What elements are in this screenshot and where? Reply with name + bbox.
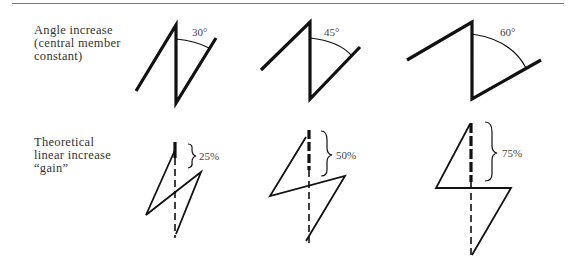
brace-icon (188, 144, 196, 168)
figure-angle-30: 30° (136, 25, 216, 103)
angle-label: 45° (324, 26, 339, 38)
angle-arc (472, 34, 526, 68)
figure-gain-25: 25% (146, 142, 219, 238)
figure-gain-75: 75% (436, 122, 522, 258)
brace-icon (321, 131, 332, 176)
figure-gain-50: 50% (270, 130, 356, 244)
gain-label: 50% (336, 149, 356, 161)
diagram-canvas: 30° 45° 60° 25% 50% 75% (0, 0, 576, 274)
angle-arc (310, 38, 352, 56)
angle-arc (176, 39, 209, 48)
gain-label: 25% (199, 150, 219, 162)
figure-angle-60: 60° (407, 22, 541, 99)
angle-label: 30° (192, 26, 207, 38)
brace-icon (485, 122, 497, 181)
figure-angle-45: 45° (261, 22, 360, 99)
angle-label: 60° (500, 26, 515, 38)
gain-label: 75% (502, 147, 522, 159)
